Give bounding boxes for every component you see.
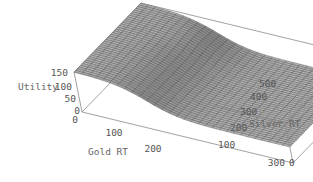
surface-plot: 150 100 50 0 Utility 0 100 200 300 Gold … [0, 0, 313, 182]
y-tick-200: 200 [230, 122, 247, 133]
z-axis-label: Utility [18, 81, 58, 92]
z-tick-50: 50 [65, 93, 77, 104]
y-tick-100: 100 [218, 139, 235, 150]
z-tick-150: 150 [51, 67, 68, 78]
y-tick-500: 500 [259, 78, 276, 89]
x-tick-100: 100 [105, 127, 122, 138]
x-tick-200: 200 [144, 143, 161, 154]
y-tick-400: 400 [250, 91, 267, 102]
y-axis-label: Silver RT [249, 118, 301, 129]
y-tick-0: 0 [289, 157, 295, 168]
x-tick-300: 300 [268, 157, 285, 168]
y-tick-300: 300 [240, 106, 257, 117]
x-tick-0: 0 [72, 114, 78, 125]
x-axis-label: Gold RT [88, 146, 128, 157]
